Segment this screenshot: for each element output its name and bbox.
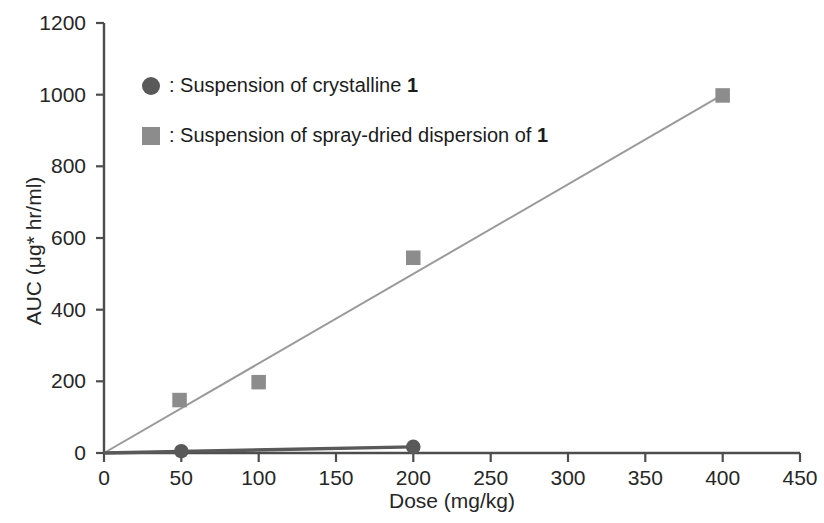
legend-item-spray-dried: : Suspension of spray-dried dispersion o… [142,124,548,147]
x-tick-label-100: 100 [241,466,276,490]
data-point-square [251,375,266,390]
data-point-square [406,251,421,266]
square-marker-icon [142,127,160,145]
y-tick-label-0: 0 [14,441,86,465]
legend-item-crystalline: : Suspension of crystalline 1 [142,74,418,97]
data-point-square [715,88,730,103]
legend-label-crystalline: : Suspension of crystalline 1 [169,74,418,97]
data-point-circle [174,444,189,459]
legend-label-crystalline-compound: 1 [407,74,418,96]
x-axis-ticks [104,453,800,462]
circle-marker-icon [142,77,160,95]
data-point-square [172,393,187,408]
x-tick-label-200: 200 [396,466,431,490]
y-axis-title: AUC (μg* hr/ml) [22,121,46,381]
x-axis-title: Dose (mg/kg) [104,489,800,513]
x-tick-label-150: 150 [318,466,353,490]
x-tick-label-300: 300 [550,466,585,490]
x-tick-label-50: 50 [170,466,193,490]
data-point-circle [406,440,421,455]
x-tick-label-400: 400 [705,466,740,490]
trendline-spray-dried [104,95,723,453]
chart-figure: 1200 1000 800 600 400 200 0 0 50 100 150… [0,0,824,523]
legend-label-spray-dried: : Suspension of spray-dried dispersion o… [169,124,548,147]
y-tick-label-1200: 1200 [14,11,86,35]
x-tick-label-350: 350 [628,466,663,490]
legend-label-spray-dried-text: : Suspension of spray-dried dispersion o… [169,124,537,146]
legend-label-spray-dried-compound: 1 [537,124,548,146]
x-tick-label-450: 450 [782,466,817,490]
y-tick-label-1000: 1000 [14,83,86,107]
legend-label-crystalline-text: : Suspension of crystalline [169,74,407,96]
x-tick-label-0: 0 [98,466,110,490]
x-tick-label-250: 250 [473,466,508,490]
